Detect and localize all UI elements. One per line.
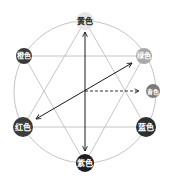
node-label: 蓝色 bbox=[138, 122, 154, 132]
node-orange: 橙色 bbox=[16, 48, 32, 64]
node-green: 绿色 bbox=[136, 48, 152, 64]
node-label: 绿色 bbox=[137, 51, 151, 60]
node-purple: 紫色 bbox=[76, 154, 94, 172]
node-yellow: 黄色 bbox=[76, 12, 94, 30]
node-label: 青色 bbox=[147, 88, 159, 96]
node-red: 红色 bbox=[13, 117, 33, 137]
triangle-down bbox=[24, 56, 144, 163]
node-blue: 蓝色 bbox=[136, 117, 156, 137]
node-label: 黄色 bbox=[77, 16, 93, 26]
node-cyan: 青色 bbox=[146, 84, 160, 98]
color-wheel-diagram: 黄色 橙色 绿色 青色 红色 蓝色 紫色 bbox=[0, 0, 174, 184]
node-label: 紫色 bbox=[77, 158, 93, 168]
node-label: 红色 bbox=[15, 122, 31, 132]
node-label: 橙色 bbox=[17, 51, 31, 60]
